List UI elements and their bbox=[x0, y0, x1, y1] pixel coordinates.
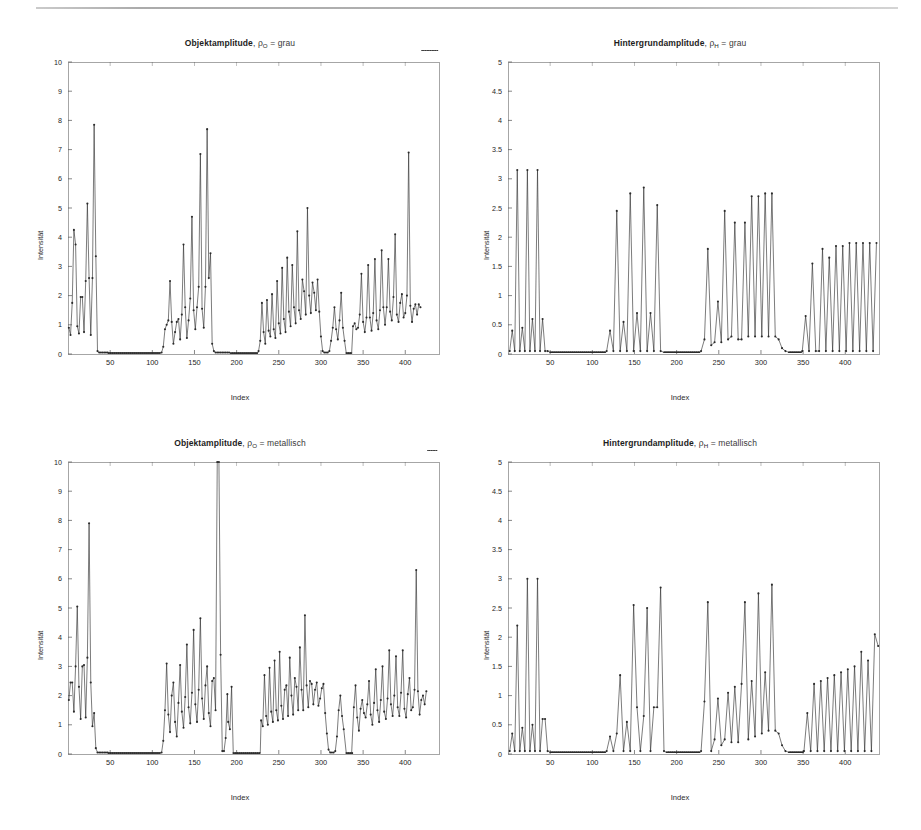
svg-text:200: 200 bbox=[670, 758, 682, 767]
panel-top-right: Hintergrundamplitude, ρH = grau Intensit… bbox=[460, 30, 900, 415]
svg-text:2: 2 bbox=[58, 291, 62, 300]
svg-text:3: 3 bbox=[498, 574, 502, 583]
svg-text:3: 3 bbox=[58, 662, 62, 671]
svg-text:4: 4 bbox=[58, 633, 62, 642]
svg-text:150: 150 bbox=[188, 358, 200, 367]
svg-text:6: 6 bbox=[58, 174, 62, 183]
svg-text:4.5: 4.5 bbox=[492, 87, 502, 96]
svg-text:250: 250 bbox=[713, 758, 725, 767]
svg-text:3.5: 3.5 bbox=[492, 545, 502, 554]
svg-text:5: 5 bbox=[498, 458, 502, 467]
svg-text:350: 350 bbox=[797, 758, 809, 767]
panel-title-bold: Hintergrundamplitude bbox=[614, 38, 705, 48]
svg-text:150: 150 bbox=[628, 758, 640, 767]
svg-text:5: 5 bbox=[498, 58, 502, 67]
svg-text:1: 1 bbox=[58, 720, 62, 729]
svg-text:0: 0 bbox=[58, 350, 62, 359]
svg-text:3: 3 bbox=[498, 174, 502, 183]
panel-title-bottom-left: Objektamplitude, ρO = metallisch bbox=[20, 438, 460, 449]
scan-artifact-rule bbox=[36, 7, 898, 9]
svg-text:10: 10 bbox=[54, 458, 62, 467]
svg-text:50: 50 bbox=[106, 758, 114, 767]
svg-text:1.5: 1.5 bbox=[492, 262, 502, 271]
svg-text:300: 300 bbox=[315, 758, 327, 767]
svg-text:400: 400 bbox=[839, 758, 851, 767]
svg-text:150: 150 bbox=[628, 358, 640, 367]
panel-title-rho: , ρ bbox=[694, 438, 704, 448]
svg-text:0: 0 bbox=[58, 750, 62, 759]
svg-text:1: 1 bbox=[498, 291, 502, 300]
panel-title-bold: Objektamplitude bbox=[174, 438, 242, 448]
svg-text:6: 6 bbox=[58, 574, 62, 583]
panel-title-bottom-right: Hintergrundamplitude, ρH = metallisch bbox=[460, 438, 900, 449]
svg-text:300: 300 bbox=[315, 358, 327, 367]
panel-bottom-left: Objektamplitude, ρO = metallisch Intensi… bbox=[20, 430, 460, 815]
svg-text:200: 200 bbox=[670, 358, 682, 367]
panel-title-top-left: Objektamplitude, ρO = grau bbox=[20, 38, 460, 49]
svg-text:3: 3 bbox=[58, 262, 62, 271]
plot-area-top-left: 01234567891050100150200250300350400 bbox=[20, 50, 460, 390]
svg-text:350: 350 bbox=[797, 358, 809, 367]
svg-text:1: 1 bbox=[498, 691, 502, 700]
svg-text:200: 200 bbox=[230, 758, 242, 767]
svg-text:400: 400 bbox=[839, 358, 851, 367]
svg-text:8: 8 bbox=[58, 116, 62, 125]
svg-text:100: 100 bbox=[146, 358, 158, 367]
svg-text:100: 100 bbox=[586, 758, 598, 767]
svg-text:5: 5 bbox=[58, 604, 62, 613]
panel-title-tail: = grau bbox=[268, 38, 295, 48]
svg-text:400: 400 bbox=[399, 358, 411, 367]
svg-text:300: 300 bbox=[755, 358, 767, 367]
chart-svg-bottom-left: 01234567891050100150200250300350400 bbox=[20, 450, 460, 790]
svg-text:0: 0 bbox=[498, 350, 502, 359]
svg-text:0.5: 0.5 bbox=[492, 720, 502, 729]
svg-text:0: 0 bbox=[498, 750, 502, 759]
x-axis-label-bottom-right: Index bbox=[460, 793, 900, 802]
svg-text:5: 5 bbox=[58, 204, 62, 213]
svg-text:1: 1 bbox=[58, 320, 62, 329]
panel-title-rho: , ρ bbox=[253, 38, 263, 48]
svg-text:2: 2 bbox=[58, 691, 62, 700]
svg-text:4: 4 bbox=[498, 116, 502, 125]
svg-text:7: 7 bbox=[58, 145, 62, 154]
x-axis-label-top-right: Index bbox=[460, 393, 900, 402]
svg-text:100: 100 bbox=[146, 758, 158, 767]
svg-text:8: 8 bbox=[58, 516, 62, 525]
svg-text:10: 10 bbox=[54, 58, 62, 67]
chart-svg-bottom-right: 00.511.522.533.544.555010015020025030035… bbox=[460, 450, 900, 790]
svg-text:50: 50 bbox=[106, 358, 114, 367]
svg-text:3.5: 3.5 bbox=[492, 145, 502, 154]
chart-svg-top-left: 01234567891050100150200250300350400 bbox=[20, 50, 460, 390]
plot-area-bottom-left: 01234567891050100150200250300350400 bbox=[20, 450, 460, 790]
svg-text:400: 400 bbox=[399, 758, 411, 767]
svg-text:100: 100 bbox=[586, 358, 598, 367]
panel-title-top-right: Hintergrundamplitude, ρH = grau bbox=[460, 38, 900, 49]
svg-text:0.5: 0.5 bbox=[492, 320, 502, 329]
svg-text:350: 350 bbox=[357, 358, 369, 367]
panel-top-left: Objektamplitude, ρO = grau Intensität In… bbox=[20, 30, 460, 415]
svg-text:2: 2 bbox=[498, 633, 502, 642]
plot-area-bottom-right: 00.511.522.533.544.555010015020025030035… bbox=[460, 450, 900, 790]
svg-text:250: 250 bbox=[273, 758, 285, 767]
svg-text:300: 300 bbox=[755, 758, 767, 767]
svg-text:2: 2 bbox=[498, 233, 502, 242]
svg-text:4: 4 bbox=[498, 516, 502, 525]
svg-text:200: 200 bbox=[230, 358, 242, 367]
svg-text:4: 4 bbox=[58, 233, 62, 242]
svg-text:9: 9 bbox=[58, 87, 62, 96]
svg-text:2.5: 2.5 bbox=[492, 604, 502, 613]
plot-area-top-right: 00.511.522.533.544.555010015020025030035… bbox=[460, 50, 900, 390]
svg-text:1.5: 1.5 bbox=[492, 662, 502, 671]
svg-text:2.5: 2.5 bbox=[492, 204, 502, 213]
svg-text:9: 9 bbox=[58, 487, 62, 496]
panel-title-bold: Objektamplitude bbox=[185, 38, 253, 48]
panel-title-rho: , ρ bbox=[242, 438, 252, 448]
panel-title-bold: Hintergrundamplitude bbox=[603, 438, 694, 448]
panel-bottom-right: Hintergrundamplitude, ρH = metallisch In… bbox=[460, 430, 900, 815]
svg-text:4.5: 4.5 bbox=[492, 487, 502, 496]
svg-text:50: 50 bbox=[546, 758, 554, 767]
svg-text:150: 150 bbox=[188, 758, 200, 767]
svg-text:350: 350 bbox=[357, 758, 369, 767]
x-axis-label-bottom-left: Index bbox=[20, 793, 460, 802]
panel-title-rho: , ρ bbox=[704, 38, 714, 48]
